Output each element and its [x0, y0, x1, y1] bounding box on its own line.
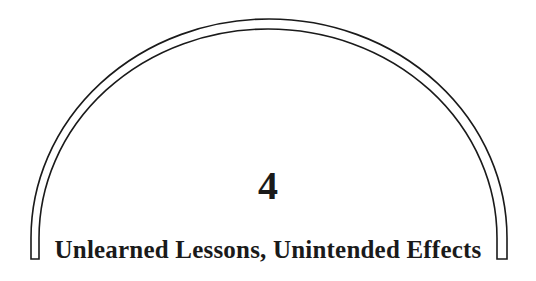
- chapter-number: 4: [0, 164, 536, 208]
- chapter-title: Unlearned Lessons, Unintended Effects: [0, 235, 536, 265]
- chapter-opener: 4 Unlearned Lessons, Unintended Effects: [0, 0, 536, 281]
